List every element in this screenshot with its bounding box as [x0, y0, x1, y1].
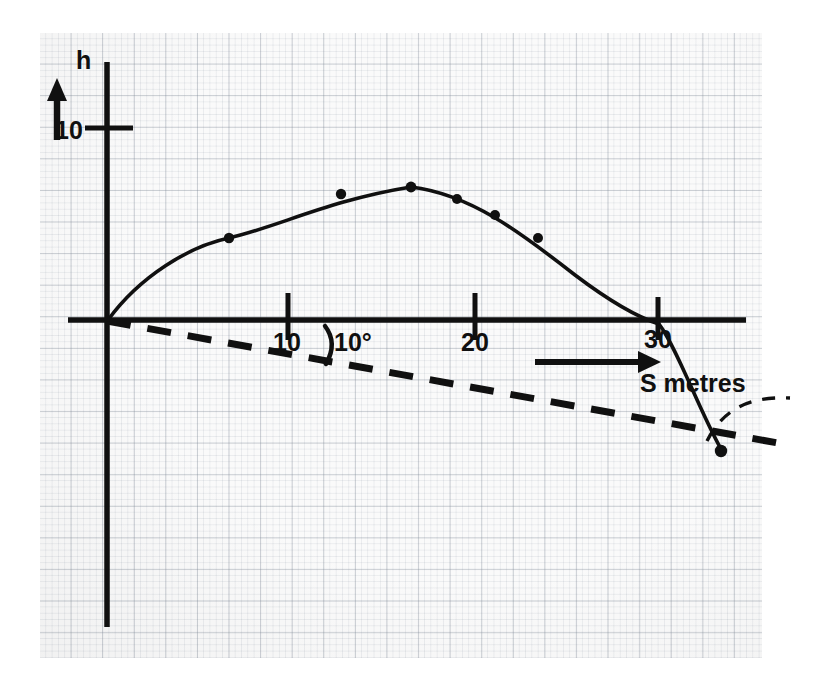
data-point-marker	[452, 194, 462, 204]
graph-drawing	[0, 0, 833, 686]
y-axis-label-h: h	[76, 48, 91, 73]
data-point-marker	[715, 445, 727, 457]
data-point-marker	[224, 233, 234, 243]
data-point-marker	[406, 182, 417, 193]
data-point-marker	[336, 189, 346, 199]
y-axis-tick-label-10: 10	[55, 118, 83, 143]
data-point-marker	[533, 233, 543, 243]
angle-label: 10°	[334, 330, 372, 355]
x-axis-tick-label-30: 30	[644, 327, 672, 352]
x-axis-tick-label-10: 10	[273, 330, 301, 355]
figure-canvas: h 10 10 20 30 10° S metres	[0, 0, 833, 686]
distance-label-s-metres: S metres	[640, 371, 746, 396]
data-point-marker	[490, 210, 500, 220]
x-axis-tick-label-20: 20	[461, 330, 489, 355]
